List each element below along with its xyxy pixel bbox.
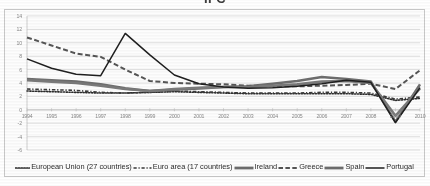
- x-axis-tick-label: 1997: [90, 113, 112, 119]
- y-axis-tick-label: -2: [8, 120, 22, 126]
- legend-item-label: Euro area (17 countries): [153, 163, 233, 170]
- x-axis-tick-label: 2003: [237, 113, 259, 119]
- legend-item[interactable]: Ireland: [234, 163, 278, 170]
- y-axis-tick-label: 4: [8, 80, 22, 86]
- legend-item-label: European Union (27 countries): [31, 163, 132, 170]
- legend-item-label: Spain: [345, 163, 364, 170]
- legend-item[interactable]: Euro area (17 countries): [133, 163, 233, 170]
- legend-item[interactable]: Portugal: [365, 163, 414, 170]
- legend-item-label: Greece: [299, 163, 323, 170]
- x-axis-tick-label: 2002: [213, 113, 235, 119]
- y-axis-tick-label: 2: [8, 93, 22, 99]
- legend-item[interactable]: European Union (27 countries): [15, 163, 132, 170]
- x-axis-tick-label: 2010: [409, 113, 430, 119]
- x-axis-tick-label: 2006: [311, 113, 333, 119]
- x-axis-tick-label: 2000: [163, 113, 185, 119]
- chart-legend: European Union (27 countries)Euro area (…: [4, 158, 425, 176]
- dashdot-swatch-icon: [133, 164, 152, 171]
- x-axis-tick-label: 1996: [65, 113, 87, 119]
- x-axis-tick-label: 1995: [41, 113, 63, 119]
- legend-item-label: Portugal: [386, 163, 414, 170]
- x-axis-tick-label: 1998: [114, 113, 136, 119]
- y-axis-tick-label: -4: [8, 134, 22, 140]
- y-axis-tick-label: 10: [8, 40, 22, 46]
- legend-item[interactable]: Greece: [278, 163, 323, 170]
- y-axis-tick-label: 6: [8, 67, 22, 73]
- x-axis-tick-label: 2001: [188, 113, 210, 119]
- y-axis-tick-label: 8: [8, 53, 22, 59]
- dotted-swatch-icon: [15, 164, 30, 171]
- dashed-swatch-icon: [278, 164, 298, 171]
- y-axis-tick-label: 12: [8, 26, 22, 32]
- chart-container: IFC 14121086420-2-4-6 199419951996199719…: [0, 0, 430, 186]
- x-axis-tick-label: 1994: [16, 113, 38, 119]
- thick-line-swatch-icon: [324, 164, 344, 171]
- x-axis-tick-label: 2007: [335, 113, 357, 119]
- thick-line-swatch-icon: [234, 164, 254, 171]
- legend-item[interactable]: Spain: [324, 163, 364, 170]
- x-axis-tick-label: 2004: [262, 113, 284, 119]
- y-axis-tick-label: 14: [8, 13, 22, 19]
- solid-line-swatch-icon: [365, 164, 385, 171]
- x-axis-tick-label: 2009: [384, 113, 406, 119]
- x-axis-tick-label: 2005: [286, 113, 308, 119]
- y-axis-tick-label: -6: [8, 147, 22, 153]
- x-axis-tick-label: 1999: [139, 113, 161, 119]
- legend-item-label: Ireland: [255, 163, 278, 170]
- x-axis-tick-label: 2008: [360, 113, 382, 119]
